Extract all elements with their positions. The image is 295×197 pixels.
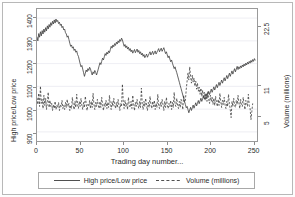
series-line-volume	[37, 67, 253, 120]
x-axis-tick-mark	[123, 142, 124, 145]
x-axis-tick-mark	[167, 142, 168, 145]
x-axis-tick-label: 150	[155, 147, 179, 154]
right-axis-tick-label: 22.5	[263, 23, 270, 35]
legend-entry-price: High price/Low price	[54, 177, 147, 184]
gridlines	[37, 18, 257, 132]
legend: High price/Low price Volume (millions)	[38, 172, 255, 189]
chart-figure: High price/Low price 9001000110012001300…	[0, 0, 295, 197]
x-axis-tick-mark	[80, 142, 81, 145]
left-axis-tick-label: 1100	[26, 84, 33, 97]
left-axis-tick-label: 1400	[26, 15, 33, 29]
legend-label-price: High price/Low price	[84, 177, 147, 184]
x-axis-tick-mark	[210, 142, 211, 145]
legend-key-solid-line-icon	[54, 177, 80, 184]
x-axis-tick-mark	[36, 142, 37, 145]
legend-entry-volume: Volume (millions)	[156, 177, 239, 184]
x-axis-tick-label: 250	[242, 147, 266, 154]
left-axis-tick-label: 1000	[26, 107, 33, 121]
right-axis-title: Volume (millions)	[283, 75, 290, 128]
right-axis-tick-mark	[258, 26, 261, 27]
right-axis-tick-mark	[258, 85, 261, 86]
legend-key-dashed-line-icon	[156, 177, 182, 184]
plot-svg	[37, 9, 257, 141]
plot-area	[36, 8, 258, 142]
left-axis-tick-label: 900	[26, 134, 33, 144]
right-axis-tick-label: 5	[263, 122, 270, 125]
left-axis-tick-label: 1300	[26, 38, 33, 52]
x-axis-tick-label: 200	[198, 147, 222, 154]
x-axis-tick-label: 100	[111, 147, 135, 154]
x-axis-title: Trading day number...	[36, 157, 258, 166]
x-axis-tick-mark	[254, 142, 255, 145]
left-axis-title: High price/Low price	[10, 79, 17, 142]
left-axis-tick-label: 1200	[26, 61, 33, 75]
x-axis-tick-label: 50	[68, 147, 92, 154]
legend-label-volume: Volume (millions)	[186, 177, 239, 184]
right-axis-tick-mark	[258, 116, 261, 117]
right-axis-tick-label: 11	[263, 88, 270, 94]
x-axis-tick-label: 0	[24, 147, 48, 154]
series-line-high-low-price	[37, 19, 255, 113]
